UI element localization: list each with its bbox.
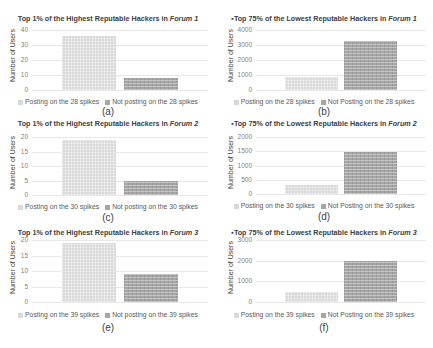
bar-posting	[285, 77, 338, 91]
bar-posting	[62, 36, 117, 90]
legend-swatch-icon	[18, 100, 23, 105]
chart-title-text: ▪Top 75% of the Lowest Reputable Hackers…	[231, 119, 388, 128]
y-tick-label: 40	[2, 26, 28, 33]
gridline	[32, 256, 208, 257]
gridline	[256, 166, 426, 167]
legend-label: Not posting on the 30 spikes	[112, 203, 198, 210]
legend-swatch-icon	[321, 313, 326, 318]
gridline	[32, 195, 208, 196]
gridline	[32, 287, 208, 288]
gridline	[32, 45, 208, 46]
chart-title-forum: Forum 2	[170, 119, 198, 128]
y-tick-label: 1000	[226, 71, 252, 78]
y-tick-label: 5	[2, 283, 28, 290]
bar-not-posting	[124, 78, 179, 90]
gridline	[32, 302, 208, 303]
y-tick-label: 0	[226, 190, 252, 197]
y-tick-label: 30	[2, 41, 28, 48]
legend-label: Not posting on the 28 spikes	[112, 98, 198, 105]
legend-swatch-icon	[234, 100, 239, 105]
y-tick-label: 20	[2, 56, 28, 63]
legend-swatch-icon	[321, 100, 326, 105]
legend: Posting on the 30 spikesNot posting on t…	[0, 203, 216, 210]
bar-posting	[285, 185, 338, 194]
legend-label: Posting on the 39 spikes	[241, 311, 315, 318]
legend-label: Not Posting on the 30 spikes	[328, 202, 415, 209]
y-tick-label: 10	[2, 162, 28, 169]
y-tick-label: 0	[226, 86, 252, 93]
gridline	[256, 137, 426, 138]
legend-swatch-icon	[105, 205, 110, 210]
y-tick-label: 20	[2, 133, 28, 140]
legend-label: Posting on the 28 spikes	[25, 98, 99, 105]
legend-item: Posting on the 28 spikes	[234, 98, 315, 105]
chart-panel-b: ▪Top 75% of the Lowest Reputable Hackers…	[216, 0, 432, 116]
panel-caption: (e)	[0, 322, 216, 333]
y-tick-label: 0	[226, 298, 252, 305]
y-tick-label: 0	[2, 191, 28, 198]
gridline	[256, 194, 426, 195]
y-tick-label: 3000	[226, 236, 252, 243]
legend-item: Not Posting on the 39 spikes	[321, 311, 415, 318]
y-tick-label: 15	[2, 252, 28, 259]
bar-not-posting	[344, 152, 397, 194]
chart-title-forum: Forum 3	[388, 228, 416, 237]
y-tick-label: 1000	[226, 277, 252, 284]
chart-title: ▪Top 75% of the Lowest Reputable Hackers…	[216, 119, 432, 128]
chart-title-text: Top 1% of the Highest Reputable Hackers …	[18, 228, 170, 237]
gridline	[32, 152, 208, 153]
legend-item: Posting on the 30 spikes	[234, 202, 315, 209]
legend-swatch-icon	[105, 313, 110, 318]
bar-not-posting	[344, 261, 397, 302]
legend-label: Posting on the 39 spikes	[25, 311, 99, 318]
chart-title: ▪Top 75% of the Lowest Reputable Hackers…	[216, 14, 432, 23]
y-tick-label: 2000	[226, 257, 252, 264]
y-tick-label: 10	[2, 267, 28, 274]
y-tick-label: 0	[2, 86, 28, 93]
chart-panel-a: Top 1% of the Highest Reputable Hackers …	[0, 0, 216, 116]
legend-item: Posting on the 30 spikes	[18, 203, 99, 210]
legend-item: Not posting on the 30 spikes	[105, 203, 198, 210]
y-tick-label: 1000	[226, 162, 252, 169]
gridline	[256, 75, 426, 76]
gridline	[256, 302, 426, 303]
chart-title-text: Top 1% of the Highest Reputable Hackers …	[18, 14, 170, 23]
gridline	[32, 90, 208, 91]
y-tick-label: 4000	[226, 26, 252, 33]
chart-title: Top 1% of the Highest Reputable Hackers …	[0, 14, 216, 23]
bar-not-posting	[344, 41, 397, 90]
legend: Posting on the 28 spikesNot Posting on t…	[216, 98, 432, 105]
plot-area: 010203040	[32, 30, 208, 90]
gridline	[256, 281, 426, 282]
gridline	[256, 180, 426, 181]
y-tick-label: 2000	[226, 56, 252, 63]
panel-caption: (d)	[216, 211, 432, 222]
gridline	[32, 181, 208, 182]
legend-swatch-icon	[234, 204, 239, 209]
plot-area: 05101520	[32, 240, 208, 302]
y-axis-label: Number of Users	[227, 241, 234, 294]
bar-posting	[285, 292, 338, 302]
plot-area: 05101520	[32, 137, 208, 195]
gridline	[256, 30, 426, 31]
legend-item: Not Posting on the 30 spikes	[321, 202, 415, 209]
y-tick-label: 1500	[226, 147, 252, 154]
legend: Posting on the 30 spikesNot Posting on t…	[216, 202, 432, 209]
legend-item: Posting on the 39 spikes	[234, 311, 315, 318]
legend-item: Posting on the 28 spikes	[18, 98, 99, 105]
gridline	[32, 60, 208, 61]
legend-swatch-icon	[105, 100, 110, 105]
chart-title-forum: Forum 1	[388, 14, 416, 23]
legend-swatch-icon	[234, 313, 239, 318]
gridline	[32, 137, 208, 138]
legend-item: Not posting on the 28 spikes	[105, 98, 198, 105]
gridline	[256, 45, 426, 46]
chart-panel-e: Top 1% of the Highest Reputable Hackers …	[0, 232, 216, 348]
gridline	[32, 75, 208, 76]
legend-label: Posting on the 30 spikes	[25, 203, 99, 210]
y-tick-label: 10	[2, 71, 28, 78]
y-tick-label: 5	[2, 177, 28, 184]
legend-label: Not Posting on the 28 spikes	[328, 98, 415, 105]
legend: Posting on the 39 spikesNot posting on t…	[0, 311, 216, 318]
legend: Posting on the 28 spikesNot posting on t…	[0, 98, 216, 105]
